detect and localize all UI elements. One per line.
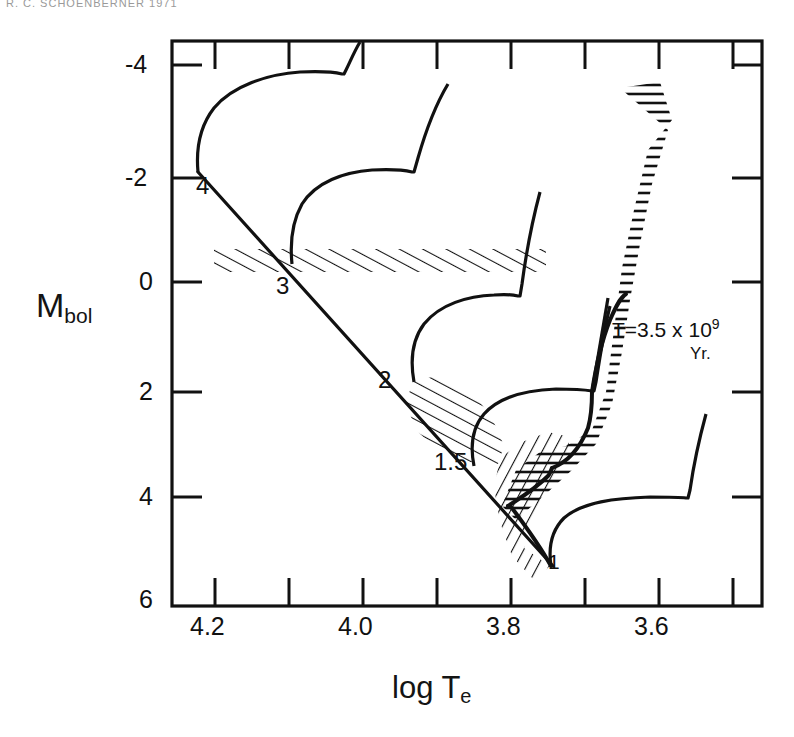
isochrone-annotation-text: T=3.5 x 10 [612,318,712,341]
horizontal-branch-band [214,249,546,272]
y-axis-title: Mbol [36,288,92,326]
y-tick-label-4: 4 [139,482,153,511]
isochrone-annotation: T=3.5 x 109 [612,316,720,342]
track-3-msun [291,84,448,264]
y-tick-label-6: 6 [139,585,153,614]
x-tick-label-4.0: 4.0 [338,612,373,641]
y-tick-label-2: 2 [139,377,153,406]
x-axis-title: log Te [392,672,471,706]
x-axis-title-subscript: e [460,685,471,707]
figure-root: R. C. SCHOENBERNER 1971 [0,0,794,737]
hr-diagram-plot [0,0,794,737]
y-axis-ticks-right [732,65,762,497]
track-2-msun [412,192,540,382]
y-tick-label-minus2: -2 [125,163,147,192]
mass-label-3: 3 [276,272,289,300]
y-tick-label-minus4: -4 [125,50,147,79]
x-axis-title-main: log T [392,670,460,705]
y-axis-title-main: M [36,286,64,324]
y-axis-title-subscript: bol [64,304,92,327]
isochrone-exponent: 9 [712,316,720,332]
y-tick-label-0: 0 [139,267,153,296]
y-axis-ticks [172,65,202,497]
track-1-msun [550,414,706,566]
x-axis-ticks-top [215,41,733,69]
x-tick-label-3.6: 3.6 [634,612,669,641]
mass-label-2: 2 [378,366,391,394]
track-4-msun [198,42,360,172]
mass-label-1.5: 1.5 [434,448,467,476]
x-tick-label-3.8: 3.8 [486,612,521,641]
isochrone-unit-label: Yr. [690,344,711,364]
x-tick-label-4.2: 4.2 [190,612,225,641]
mass-label-4: 4 [196,172,209,200]
x-axis-ticks [215,578,733,606]
mass-label-1: 1 [548,550,560,574]
